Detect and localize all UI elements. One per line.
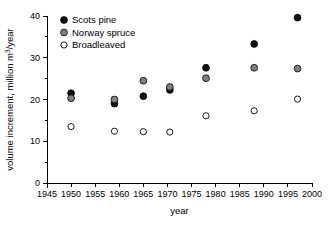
data-point <box>166 84 173 91</box>
y-axis-title-post: /year <box>4 28 15 49</box>
legend-label-1: Norway spruce <box>72 27 135 38</box>
x-tick-label: 1960 <box>109 189 129 199</box>
y-tick-label: 0 <box>35 178 40 188</box>
x-tick-label: 1970 <box>157 189 177 199</box>
legend-marker-2 <box>61 42 67 48</box>
x-tick-label: 1945 <box>37 189 57 199</box>
data-point <box>203 75 210 82</box>
x-tick-label: 1975 <box>182 189 202 199</box>
scatter-plot: 010203040 194519501955196019651970197519… <box>0 0 333 227</box>
x-tick-label: 1990 <box>254 189 274 199</box>
x-axis-title: year <box>170 205 188 216</box>
data-point <box>294 96 300 102</box>
legend-marker-1 <box>61 29 68 36</box>
y-tick-label: 40 <box>30 11 40 21</box>
data-point <box>68 95 75 102</box>
data-point <box>111 128 117 134</box>
data-point <box>251 41 258 48</box>
legend-marker-0 <box>61 17 68 24</box>
data-point <box>294 65 301 72</box>
y-tick-label: 20 <box>30 95 40 105</box>
chart-legend: Scots pineNorway spruceBroadleaved <box>61 14 136 50</box>
series-broadleaved <box>68 96 301 135</box>
y-axis-title-pre: volume increment, million m <box>4 53 15 171</box>
x-tick-label: 1965 <box>133 189 153 199</box>
x-tick-label: 1950 <box>61 189 81 199</box>
chart-figure: 010203040 194519501955196019651970197519… <box>0 0 333 227</box>
data-point <box>140 129 146 135</box>
x-tick-label: 1955 <box>85 189 105 199</box>
data-point <box>167 129 173 135</box>
y-tick-label: 30 <box>30 53 40 63</box>
legend-label-2: Broadleaved <box>72 39 125 50</box>
x-tick-label: 2000 <box>302 189 322 199</box>
x-tick-label: 1985 <box>230 189 250 199</box>
data-point <box>140 93 147 100</box>
y-axis-title: volume increment, million m3/year <box>4 28 15 170</box>
y-axis: 010203040 <box>30 11 47 188</box>
data-point <box>294 14 301 21</box>
data-point <box>203 64 210 71</box>
legend-label-0: Scots pine <box>72 14 116 25</box>
x-tick-label: 1980 <box>206 189 226 199</box>
x-axis: 1945195019551960196519701975198019851990… <box>37 183 322 199</box>
series-norway-spruce <box>68 64 301 103</box>
data-point <box>251 108 257 114</box>
data-point <box>68 124 74 130</box>
data-point <box>251 64 258 71</box>
y-tick-label: 10 <box>30 136 40 146</box>
data-point <box>111 96 118 103</box>
data-point <box>203 113 209 119</box>
data-point <box>140 77 147 84</box>
x-tick-label: 1995 <box>278 189 298 199</box>
